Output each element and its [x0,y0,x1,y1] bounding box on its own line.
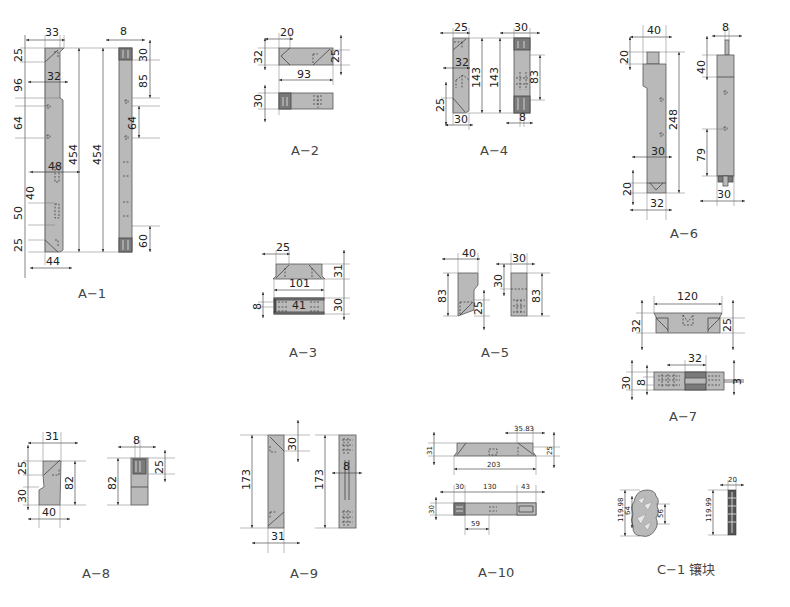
a1-dimensions: 33 32 48 44 25 96 64 40 50 25 454 454 8 … [12,25,160,278]
a6-side-view [717,40,734,186]
dim-a8-side-top: 25 [153,460,166,474]
dim-a1-step: 96 [12,78,25,92]
dim-a3-chamfer-width: 25 [276,241,290,254]
dim-a3-center: 41 [292,299,306,312]
part-a9: 173 30 31 173 8 A−9 [240,420,362,581]
part-a3: 25 101 41 31 30 8 A−3 [251,241,350,360]
technical-drawing-sheet: 33 32 48 44 25 96 64 40 50 25 454 454 8 … [0,0,790,607]
dim-a4-bottom-chamfer: 25 [434,98,447,112]
dim-a8-bottom-width: 40 [42,506,56,519]
caption-a10: A−10 [478,565,514,580]
a3-dimensions: 25 101 41 31 30 8 [251,241,350,320]
dim-a7-slot: 8 [635,379,648,386]
dim-a10-height: 31 [426,446,434,455]
dim-a4-inner: 32 [455,56,469,69]
caption-a5: A−5 [481,345,509,360]
part-a5: 40 83 25 30 30 83 A−5 [436,247,550,360]
a5-side-view [511,273,527,316]
dim-a1-length-side: 454 [91,144,104,165]
c1-front-view [632,490,659,536]
caption-a8: A−8 [82,566,110,581]
dim-a1-side-top: 30 [137,48,150,62]
a2-top-view [279,48,333,65]
caption-a4: A−4 [480,143,508,158]
dim-a1-side-bottom: 60 [137,234,150,248]
dim-a7-pin: 3 [731,378,744,385]
dim-a1-slot1: 40 [24,186,37,200]
dim-a10-side-height: 30 [428,505,436,514]
dim-a1-bottom-chamfer: 25 [12,238,25,252]
dim-a1-slot2: 50 [12,206,25,220]
a9-side-view [339,435,356,528]
dim-a5-step: 25 [472,301,485,315]
dim-a3-length: 101 [289,277,310,290]
dim-c1-side-width: 20 [728,476,737,484]
part-a2: 20 32 93 25 30 A−2 [252,26,350,158]
c1-side-view [728,490,736,535]
dim-a4-top-width: 25 [454,21,468,34]
dim-a2-length: 93 [297,68,311,81]
a10-side-view [454,503,536,515]
caption-a1: A−1 [78,286,106,301]
dim-a1-side-width: 8 [120,25,127,38]
dim-a5-width: 40 [462,247,476,260]
dim-a7-center: 32 [688,352,702,365]
dim-a6-mid-width: 30 [651,145,665,158]
dim-a7-length: 120 [677,290,698,303]
dim-a1-upper-width: 32 [47,70,61,83]
part-c1: 119.98 64 56 20 119.99 C−1 镶块 [617,476,744,577]
dim-a1-hole-spacing: 64 [12,116,25,130]
part-a6: 40 20 248 30 20 32 8 40 79 [618,21,745,241]
dim-a6-length: 248 [667,109,680,130]
dim-a9-chamfer: 30 [286,437,299,451]
caption-a3: A−3 [289,345,317,360]
dim-a2-right-height: 25 [329,49,342,63]
dim-a4-length2: 143 [488,67,501,88]
dim-a1-top-width: 33 [45,26,59,39]
dim-a4-side-slot: 8 [519,111,526,124]
dim-a6-side-width: 30 [717,188,731,201]
dim-a10-seg1: 30 [455,483,464,491]
a2-side-view [279,93,333,109]
caption-c1: C−1 镶块 [657,562,715,577]
dim-a3-slot: 8 [251,303,264,310]
dim-c1-inner: 64 [624,506,632,515]
dim-a1-side-step: 85 [137,74,150,88]
dim-a1-side-holes: 64 [126,116,139,130]
dim-a9-length: 173 [240,469,253,490]
dim-a6-top-width: 40 [647,24,661,37]
dim-a7-right-height: 25 [721,318,734,332]
dim-a7-height: 32 [630,319,643,333]
dim-a2-chamfer-width: 20 [280,26,294,39]
dim-a6-side-pin: 8 [722,21,729,34]
dim-a1-bottom-width: 44 [46,255,60,268]
a4-dimensions: 25 32 143 143 25 30 30 83 8 [434,21,545,130]
dim-a6-bottom-width: 32 [650,197,664,210]
dim-a8-chamfer: 25 [16,461,29,475]
dim-a5-height: 83 [436,289,449,303]
dim-a8-side-width: 8 [133,434,140,447]
a10-dimensions: 35.83 31 25 203 30 130 43 30 59 [426,425,560,535]
dim-a3-side-height: 30 [332,298,345,312]
dim-a10-seg3: 43 [521,483,530,491]
a6-front-view [643,52,666,193]
caption-a2: A−2 [291,143,319,158]
dim-a10-right-height: 25 [546,446,554,455]
dim-a9-side-length: 173 [313,469,326,490]
dim-a1-top-chamfer: 25 [12,48,25,62]
dim-a4-side-width: 30 [514,21,528,34]
a9-front-view [268,435,284,528]
caption-a6: A−6 [670,226,698,241]
caption-a7: A−7 [669,409,697,424]
dim-c1-side-height: 119.99 [705,498,713,523]
dim-a6-side-bottom: 79 [695,148,708,162]
a8-dimensions: 31 25 30 82 40 8 82 25 [16,430,175,528]
a8-front-view [39,460,61,505]
dim-a6-tip: 20 [621,182,634,196]
dim-c1-right: 56 [657,509,665,518]
dim-a4-length1: 143 [470,67,483,88]
dim-a1-length-front: 454 [67,144,80,165]
dim-a8-side-height: 82 [106,476,119,490]
dim-a5-side-height: 83 [530,289,543,303]
dim-a4-side-height: 83 [528,70,541,84]
